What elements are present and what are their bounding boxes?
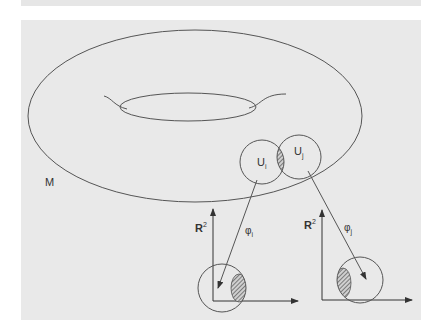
label-uj: Uj [294, 145, 304, 160]
label-phi-j: φj [344, 222, 352, 236]
right-coordinate-plane: R2 [304, 210, 412, 303]
torus-hole [104, 93, 286, 121]
left-r2-label: R2 [195, 221, 207, 234]
label-phi-i: φi [245, 225, 253, 238]
manifold-chart-diagram: M Ui Uj φi φj R2 R2 [0, 0, 430, 334]
torus-outer-boundary [28, 30, 362, 202]
label-ui: Ui [257, 156, 267, 170]
manifold-label: M [45, 176, 54, 188]
right-r2-label: R2 [304, 218, 316, 231]
map-arrow-phi-j [308, 171, 366, 279]
